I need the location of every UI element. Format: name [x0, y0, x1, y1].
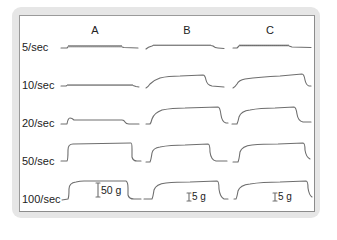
trace-b-50: [146, 144, 227, 162]
trace-a-10: [61, 85, 139, 87]
trace-b-100: [144, 181, 228, 199]
trace-b-5: [146, 45, 224, 49]
trace-a-20: [61, 118, 139, 124]
trace-c-100: [234, 181, 312, 199]
scale-bar-a: [96, 183, 100, 197]
scale-label-a: 50 g: [101, 184, 121, 196]
scale-bar-b: [187, 193, 191, 201]
trace-c-20: [232, 107, 311, 124]
trace-b-20: [146, 107, 228, 124]
trace-a-5: [61, 46, 138, 49]
trace-a-50: [61, 143, 141, 161]
trace-c-5: [233, 45, 311, 48]
trace-b-10: [146, 75, 224, 88]
trace-c-50: [233, 143, 310, 162]
scale-label-c: 5 g: [278, 191, 292, 202]
scale-bar-c: [273, 193, 277, 201]
trace-c-10: [233, 74, 311, 88]
scale-label-b: 5 g: [192, 191, 206, 202]
